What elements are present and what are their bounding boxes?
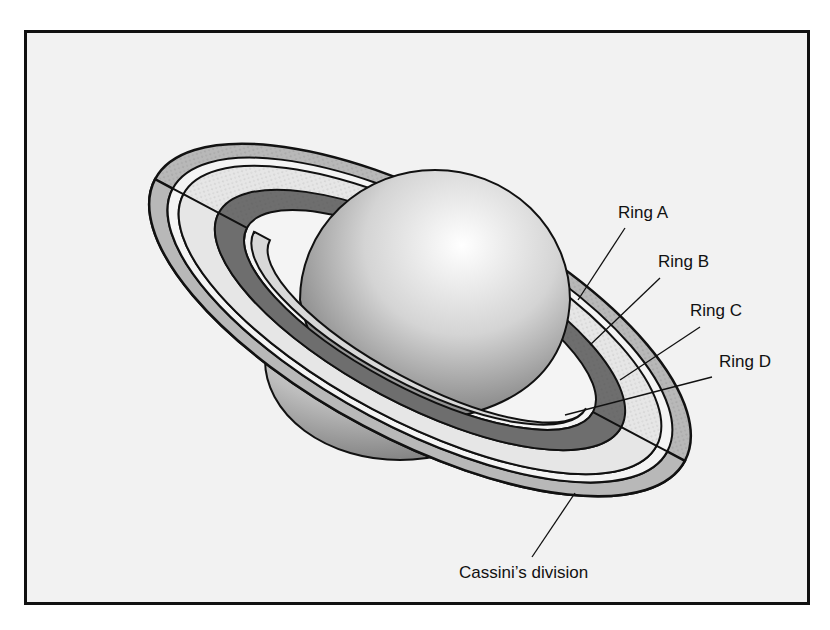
label-ring-c: Ring C (690, 301, 742, 321)
label-cassini-division: Cassini’s division (459, 563, 588, 583)
label-ring-a: Ring A (618, 203, 668, 223)
label-ring-b: Ring B (658, 252, 709, 272)
label-ring-d: Ring D (719, 352, 771, 372)
